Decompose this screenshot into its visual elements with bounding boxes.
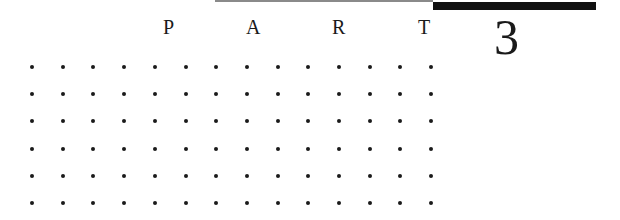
grid-dot [337, 119, 341, 123]
grid-dot [429, 174, 433, 178]
grid-dot [368, 119, 372, 123]
grid-dot [153, 119, 157, 123]
grid-dot [306, 201, 310, 205]
grid-dot [91, 174, 95, 178]
grid-dot [398, 119, 402, 123]
grid-dot [368, 201, 372, 205]
grid-dot [61, 119, 65, 123]
grid-dot [61, 147, 65, 151]
grid-dot [122, 119, 126, 123]
grid-dot [214, 174, 218, 178]
grid-dot [61, 92, 65, 96]
grid-dot [398, 174, 402, 178]
grid-dot [245, 174, 249, 178]
grid-dot [91, 201, 95, 205]
grid-dot [306, 147, 310, 151]
grid-dot [122, 65, 126, 69]
grid-dot [306, 92, 310, 96]
grid-dot [30, 65, 34, 69]
grid-dot [30, 147, 34, 151]
grid-dot [30, 119, 34, 123]
grid-dot [184, 92, 188, 96]
grid-dot [276, 119, 280, 123]
grid-dot [245, 119, 249, 123]
grid-dot [337, 201, 341, 205]
grid-dot [245, 92, 249, 96]
grid-dot [398, 65, 402, 69]
grid-dot [337, 147, 341, 151]
grid-dot [184, 201, 188, 205]
grid-dot [184, 65, 188, 69]
grid-dot [337, 92, 341, 96]
grid-dot [30, 174, 34, 178]
grid-dot [184, 147, 188, 151]
grid-dot [276, 201, 280, 205]
grid-dot [30, 92, 34, 96]
grid-dot [153, 65, 157, 69]
grid-dot [337, 65, 341, 69]
grid-dot [276, 92, 280, 96]
grid-dot [214, 147, 218, 151]
grid-dot [122, 174, 126, 178]
grid-dot [245, 201, 249, 205]
grid-dot [61, 174, 65, 178]
grid-dot [153, 92, 157, 96]
grid-dot [276, 65, 280, 69]
grid-dot [184, 119, 188, 123]
grid-dot [214, 65, 218, 69]
grid-dot [276, 147, 280, 151]
grid-dot [91, 65, 95, 69]
grid-dot [91, 92, 95, 96]
grid-dot [214, 201, 218, 205]
grid-dot [429, 65, 433, 69]
grid-dot [214, 92, 218, 96]
grid-dot [276, 174, 280, 178]
grid-dot [368, 92, 372, 96]
grid-dot [153, 147, 157, 151]
grid-dot [368, 174, 372, 178]
grid-dot [429, 119, 433, 123]
grid-dot [306, 174, 310, 178]
grid-dot [429, 147, 433, 151]
grid-dot [91, 147, 95, 151]
grid-dot [245, 147, 249, 151]
grid-dot [214, 119, 218, 123]
grid-dot [398, 201, 402, 205]
grid-dot [306, 119, 310, 123]
grid-dot [245, 65, 249, 69]
dot-grid-decoration [0, 0, 620, 220]
grid-dot [30, 201, 34, 205]
grid-dot [153, 174, 157, 178]
grid-dot [184, 174, 188, 178]
grid-dot [429, 92, 433, 96]
grid-dot [429, 201, 433, 205]
grid-dot [368, 147, 372, 151]
grid-dot [61, 201, 65, 205]
grid-dot [91, 119, 95, 123]
grid-dot [122, 92, 126, 96]
grid-dot [368, 65, 372, 69]
grid-dot [122, 147, 126, 151]
grid-dot [122, 201, 126, 205]
grid-dot [306, 65, 310, 69]
grid-dot [337, 174, 341, 178]
grid-dot [398, 92, 402, 96]
grid-dot [398, 147, 402, 151]
grid-dot [61, 65, 65, 69]
grid-dot [153, 201, 157, 205]
